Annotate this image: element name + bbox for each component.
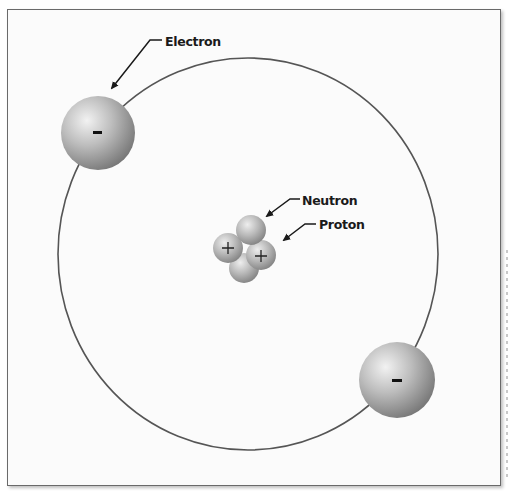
electron-label: Electron bbox=[165, 34, 221, 49]
electron-bottom-right bbox=[359, 342, 435, 418]
negative-charge-icon bbox=[93, 131, 102, 134]
vertical-credit-text bbox=[503, 250, 511, 480]
electron-leader-arrow bbox=[112, 40, 162, 88]
electron-top-left bbox=[61, 96, 135, 170]
neutron-label: Neutron bbox=[302, 193, 357, 208]
proton-label: Proton bbox=[319, 217, 365, 232]
atom-diagram: Electron Neutron Proton bbox=[0, 0, 513, 491]
nucleus bbox=[213, 215, 276, 283]
negative-charge-icon bbox=[392, 379, 402, 382]
neutron-top bbox=[236, 215, 266, 245]
neutron-leader-arrow bbox=[267, 199, 300, 216]
proton-leader-arrow bbox=[284, 224, 316, 240]
